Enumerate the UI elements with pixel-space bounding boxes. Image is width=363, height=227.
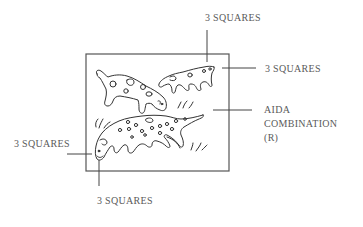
label-left-3-squares: 3 SQUARES [14,137,70,151]
grass-strokes [96,101,207,151]
upper-left-dog [96,70,166,113]
label-aida-combination: AIDA COMBINATION (R) [264,103,337,145]
label-right-3-squares: 3 SQUARES [265,62,321,76]
label-top-3-squares: 3 SQUARES [205,11,261,25]
pattern-frame [86,54,229,171]
label-aida-line-1: AIDA [264,103,337,117]
label-aida-line-2: COMBINATION [264,117,337,131]
upper-right-dog [159,66,214,93]
label-bottom-3-squares: 3 SQUARES [97,194,153,208]
label-aida-line-3: (R) [264,131,337,145]
bottom-dog [95,115,203,160]
